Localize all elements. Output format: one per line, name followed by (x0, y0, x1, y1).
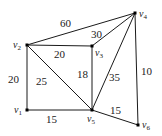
weight-v3-v4: 30 (91, 28, 103, 40)
vertex-v5-dot (91, 109, 94, 112)
weight-v3-v5: 18 (77, 68, 89, 80)
weight-v2-v5: 25 (36, 75, 48, 87)
vertex-v4-dot (134, 12, 137, 15)
weight-v4-v6: 10 (141, 65, 153, 77)
vertex-label-v2: v2 (13, 39, 21, 52)
weight-v4-v5: 35 (109, 71, 121, 83)
edge-v2-v4 (27, 13, 135, 45)
weight-v5-v6: 15 (110, 104, 122, 116)
edge-v4-v6 (135, 13, 138, 125)
vertex-label-v3: v3 (95, 47, 103, 60)
weight-v2-v3: 20 (54, 48, 66, 60)
vertex-v2-dot (26, 44, 29, 47)
vertex-label-v5: v5 (87, 113, 95, 126)
weight-v2-v1: 20 (8, 73, 20, 85)
graph-diagram: 60 20 30 20 25 18 35 10 15 15 v1 v2 v3 v… (0, 0, 162, 136)
vertex-label-v6: v6 (142, 119, 150, 132)
vertex-v1-dot (26, 109, 29, 112)
edge-weights: 60 20 30 20 25 18 35 10 15 15 (8, 17, 153, 125)
vertex-v3-dot (91, 45, 94, 48)
weight-v1-v5: 15 (46, 113, 58, 125)
vertex-label-v1: v1 (14, 104, 22, 117)
vertex-v6-dot (137, 124, 140, 127)
edge-v2-v3 (27, 45, 92, 46)
weight-v2-v4: 60 (60, 17, 72, 29)
vertex-label-v4: v4 (139, 8, 147, 21)
